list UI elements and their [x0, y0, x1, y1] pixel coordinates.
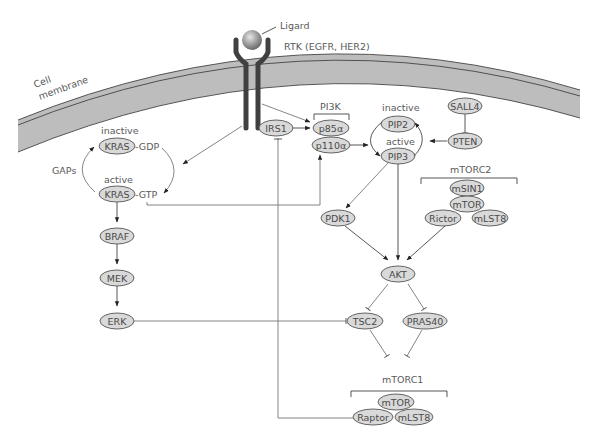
- svg-text:IRS1: IRS1: [265, 123, 286, 134]
- mtorc1-label: mTORC1: [382, 374, 423, 385]
- kras-inactive-label: inactive: [101, 125, 139, 136]
- svg-text:mLST8: mLST8: [398, 412, 430, 423]
- svg-text:SALL4: SALL4: [450, 101, 479, 112]
- cell-membrane: [18, 54, 580, 152]
- svg-text:PTEN: PTEN: [453, 136, 478, 147]
- svg-text:PIP2: PIP2: [388, 119, 408, 130]
- svg-text:PIP3: PIP3: [388, 151, 408, 162]
- svg-text:mLST8: mLST8: [474, 213, 506, 224]
- svg-text:Raptor: Raptor: [357, 412, 389, 423]
- svg-text:MEK: MEK: [107, 273, 128, 284]
- pip-active-label: active: [386, 136, 415, 147]
- gtp-label: -GTP: [135, 189, 158, 200]
- rtk-label: RTK (EGFR, HER2): [284, 41, 370, 52]
- svg-text:PRAS40: PRAS40: [407, 316, 444, 327]
- ligand-icon: [242, 30, 262, 50]
- svg-text:KRAS: KRAS: [105, 189, 130, 200]
- svg-text:mTOR: mTOR: [452, 199, 482, 210]
- pathway-diagram: Cell membrane Ligard RTK (EGFR, HER2) in…: [0, 0, 591, 440]
- svg-text:mTOR: mTOR: [381, 397, 411, 408]
- pi3k-label: PI3K: [320, 101, 342, 112]
- svg-text:AKT: AKT: [389, 269, 407, 280]
- ligand-label: Ligard: [280, 20, 310, 31]
- kras-active-label: active: [104, 174, 133, 185]
- svg-text:BRAF: BRAF: [105, 231, 130, 242]
- svg-text:KRAS: KRAS: [105, 141, 130, 152]
- svg-text:p85α: p85α: [319, 123, 343, 134]
- svg-text:TSC2: TSC2: [352, 316, 378, 327]
- svg-text:PDK1: PDK1: [325, 213, 350, 224]
- svg-text:ERK: ERK: [108, 316, 128, 327]
- pip-inactive-label: inactive: [382, 102, 420, 113]
- gaps-label: GAPs: [52, 165, 76, 176]
- svg-text:Rictor: Rictor: [429, 213, 457, 224]
- svg-text:mSIN1: mSIN1: [451, 183, 482, 194]
- svg-text:p110α: p110α: [316, 140, 346, 151]
- mtorc2-label: mTORC2: [450, 164, 491, 175]
- gdp-label: -GDP: [135, 141, 159, 152]
